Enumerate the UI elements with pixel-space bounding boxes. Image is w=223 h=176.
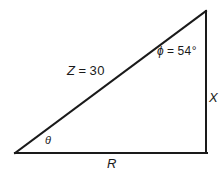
hypotenuse-value: 30 — [90, 63, 105, 78]
triangle-graphic — [0, 0, 223, 176]
triangle-side-hypotenuse-line — [15, 11, 206, 153]
hypotenuse-equals-sign: = — [75, 63, 89, 78]
adjacent-side-label: R — [107, 157, 116, 170]
angle-phi-equals-sign: = — [164, 44, 177, 58]
impedance-triangle-figure: Z=30 ϕ=54° θ R X — [0, 0, 223, 176]
opposite-side-label: X — [209, 91, 218, 104]
hypotenuse-label: Z=30 — [67, 64, 105, 77]
angle-phi-label: ϕ=54° — [157, 45, 197, 57]
angle-phi-value: 54° — [178, 44, 197, 58]
angle-theta-label: θ — [45, 135, 51, 146]
